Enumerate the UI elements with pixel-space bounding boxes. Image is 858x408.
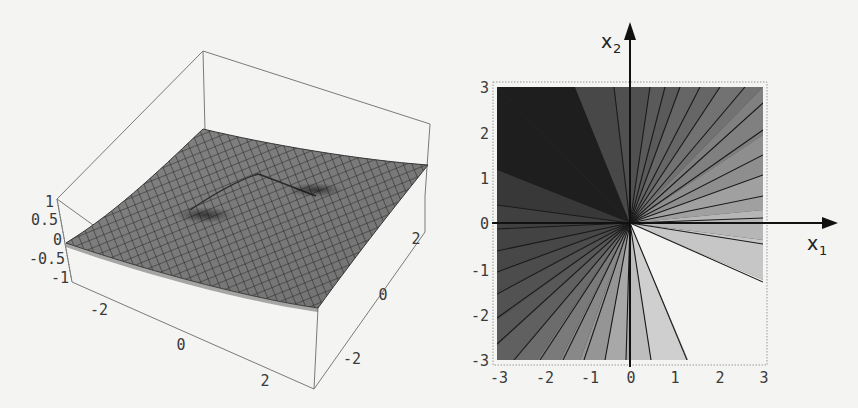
front-axis: -2 0 2 <box>90 301 270 390</box>
surface-mesh <box>66 129 428 312</box>
front-tick-label: 0 <box>176 336 185 354</box>
y-tick-label: 3 <box>480 79 489 97</box>
front-tick-label: -2 <box>90 301 108 319</box>
x-tick-label: 2 <box>715 369 724 387</box>
x1-label-sub: 1 <box>819 243 827 258</box>
x-ticks: -3 -2 -1 0 1 2 3 <box>490 369 769 387</box>
z-tick-label: 1 <box>45 193 54 211</box>
front-tick-label: 2 <box>260 372 269 390</box>
z-tick-label: 0.5 <box>31 211 58 229</box>
z-tick-label: -1 <box>51 269 69 287</box>
surface-dip-right <box>287 183 343 197</box>
y-tick-label: -3 <box>471 352 489 370</box>
y-ticks: 3 2 1 0 -1 -2 -3 <box>471 79 489 370</box>
x-tick-label: 1 <box>670 369 679 387</box>
x-tick-label: -3 <box>490 369 508 387</box>
figure: 1 0.5 0 -0.5 -1 -2 0 2 2 0 -2 <box>0 0 858 408</box>
x2-axis-label: x 2 <box>601 30 621 56</box>
x1-label: x <box>807 232 818 254</box>
contour-plot: x 2 x 1 3 2 1 0 -1 -2 -3 -3 -2 -1 0 1 2 … <box>471 22 838 387</box>
x1-arrow-icon <box>822 217 838 229</box>
surface-plot: 1 0.5 0 -0.5 -1 -2 0 2 2 0 -2 <box>29 51 430 390</box>
z-tick-label: -0.5 <box>29 250 65 268</box>
y-tick-label: 0 <box>480 215 489 233</box>
z-tick-label: 0 <box>53 231 62 249</box>
x2-arrow-icon <box>624 22 636 40</box>
x1-axis-label: x 1 <box>807 232 827 258</box>
z-axis: 1 0.5 0 -0.5 -1 <box>29 193 72 287</box>
x2-label: x <box>601 30 612 52</box>
x-tick-label: 3 <box>759 369 768 387</box>
x-tick-label: -2 <box>536 369 554 387</box>
y-tick-label: -1 <box>471 262 489 280</box>
right-tick-label: -2 <box>343 350 361 368</box>
x2-label-sub: 2 <box>613 41 621 56</box>
surface-dip-left <box>175 207 235 223</box>
right-tick-label: 2 <box>411 230 420 248</box>
x-tick-label: 0 <box>626 369 635 387</box>
x-tick-label: -1 <box>581 369 599 387</box>
y-tick-label: 2 <box>480 125 489 143</box>
y-tick-label: 1 <box>480 170 489 188</box>
right-tick-label: 0 <box>378 286 387 304</box>
y-tick-label: -2 <box>471 307 489 325</box>
